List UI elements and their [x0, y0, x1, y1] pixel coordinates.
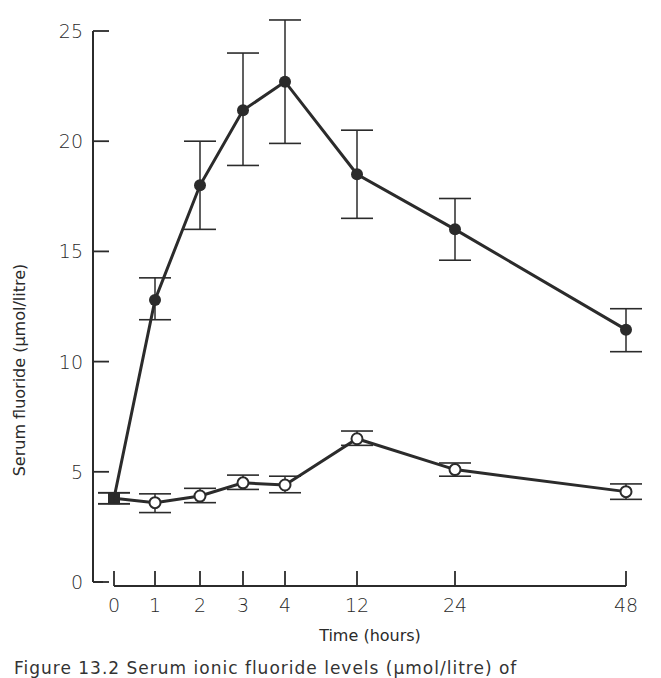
- data-point: [237, 104, 249, 116]
- data-point: [620, 324, 632, 336]
- x-tick-label: 48: [614, 594, 638, 616]
- data-point: [195, 491, 206, 502]
- figure-caption: Figure 13.2 Serum ionic fluoride levels …: [14, 658, 654, 678]
- x-tick-label: 4: [279, 594, 291, 616]
- data-point: [352, 433, 363, 444]
- series-open: [98, 431, 642, 513]
- series-layer: [98, 20, 642, 513]
- x-axis-title: Time (hours): [318, 626, 421, 645]
- series-line: [114, 439, 626, 503]
- y-tick-label: 15: [59, 240, 83, 262]
- data-point: [194, 179, 206, 191]
- x-tick-label: 3: [237, 594, 249, 616]
- data-point: [449, 223, 461, 235]
- y-tick-label: 0: [71, 571, 83, 593]
- data-point: [351, 168, 363, 180]
- data-point: [280, 480, 291, 491]
- y-tick-label: 10: [59, 351, 83, 373]
- data-point: [621, 486, 632, 497]
- x-axis: 01234122448: [93, 571, 638, 616]
- x-tick-label: 12: [345, 594, 369, 616]
- y-tick-label: 5: [71, 461, 83, 483]
- x-tick-label: 0: [108, 594, 120, 616]
- y-tick-label: 25: [59, 20, 83, 42]
- data-point: [238, 477, 249, 488]
- x-tick-label: 2: [194, 594, 206, 616]
- data-point: [150, 497, 161, 508]
- y-tick-label: 20: [59, 130, 83, 152]
- x-tick-label: 24: [443, 594, 467, 616]
- data-point: [279, 76, 291, 88]
- data-point: [149, 294, 161, 306]
- series-line: [114, 82, 626, 499]
- data-point: [450, 464, 461, 475]
- y-axis: 0510152025: [59, 20, 109, 593]
- x-tick-label: 1: [149, 594, 161, 616]
- y-axis-title: Serum fluoride (μmol/litre): [10, 264, 29, 477]
